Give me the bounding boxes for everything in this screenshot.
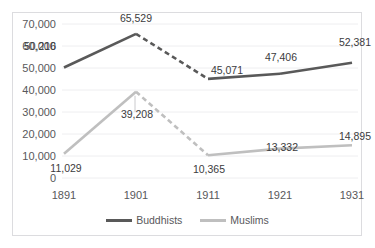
legend-swatch-buddhists [106,219,132,222]
data-label-muslims-1901: 39,208 [114,109,160,120]
series-segment-muslims [64,92,136,154]
x-tick-label: 1891 [37,190,91,201]
series-segment-muslims [136,92,208,155]
chart-legend: Buddhists Muslims [0,215,375,226]
y-tick-label: 30,000 [4,107,56,118]
data-label-muslims-1891: 11,029 [43,163,89,174]
x-tick-label: 1911 [181,190,235,201]
y-tick-label: 50,000 [4,63,56,74]
y-tick-label: 40,000 [4,85,56,96]
legend-label-buddhists: Buddhists [136,215,182,226]
data-label-muslims-1931: 14,895 [332,131,375,142]
data-label-buddhists-1901: 65,529 [113,13,159,24]
legend-swatch-muslims [200,219,226,222]
data-label-muslims-1921: 13,332 [259,142,305,153]
series-lines-group [64,34,352,155]
x-tick-label: 1931 [325,190,375,201]
y-tick-label: 20,000 [4,129,56,140]
legend-item-muslims[interactable]: Muslims [200,215,269,226]
data-label-buddhists-1911: 45,071 [204,65,250,76]
legend-item-buddhists[interactable]: Buddhists [106,215,182,226]
y-tick-label: 10,000 [4,151,56,162]
x-tick-label: 1901 [109,190,163,201]
x-tick-label: 1921 [253,190,307,201]
line-chart-figure: 70,00060,00050,00040,00030,00020,00010,0… [0,0,375,248]
data-label-buddhists-1921: 47,406 [258,52,304,63]
legend-label-muslims: Muslims [230,215,269,226]
series-segment-buddhists [64,34,136,68]
data-label-muslims-1911: 10,365 [186,164,232,175]
data-label-buddhists-1931: 52,381 [332,37,375,48]
y-tick-label: 70,000 [4,19,56,30]
data-label-buddhists-1891: 50,216 [17,41,63,52]
y-tick-label: 0 [4,173,56,184]
chart-canvas [0,0,375,248]
series-segment-buddhists [136,34,208,79]
